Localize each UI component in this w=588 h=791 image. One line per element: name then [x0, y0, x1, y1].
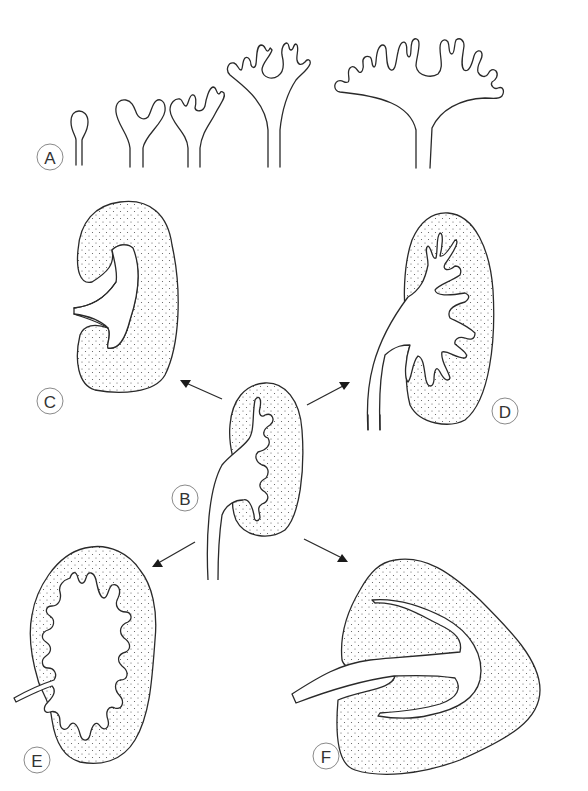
label-b: B	[172, 485, 198, 511]
svg-text:A: A	[44, 149, 56, 168]
arrow-b-to-d	[307, 382, 350, 405]
label-d: D	[492, 398, 518, 424]
panel-e-multilobar-kidney: E	[14, 547, 156, 773]
svg-text:C: C	[44, 393, 56, 412]
bud-stage-3	[170, 87, 224, 167]
svg-text:E: E	[31, 752, 42, 771]
panel-f-crest-kidney: F	[292, 559, 540, 774]
bud-stage-1	[71, 111, 88, 165]
panel-c-unipapillary-kidney: C	[37, 201, 178, 414]
svg-text:F: F	[321, 748, 331, 767]
panel-d-kidney: D	[367, 213, 518, 430]
label-e: E	[24, 747, 50, 773]
kidney-development-diagram: A C D B E	[0, 0, 588, 791]
arrow-b-to-e	[152, 542, 195, 567]
svg-text:D: D	[499, 403, 511, 422]
bud-stage-5	[335, 39, 504, 168]
arrow-b-to-c	[180, 380, 222, 399]
panel-b-kidney: B	[172, 383, 303, 580]
bud-stage-2	[116, 100, 165, 167]
label-a: A	[37, 144, 63, 170]
label-c: C	[37, 388, 63, 414]
bud-stage-4	[227, 43, 310, 167]
panel-a-branching-sequence: A	[37, 39, 503, 170]
svg-text:B: B	[179, 490, 190, 509]
label-f: F	[313, 743, 339, 769]
arrow-b-to-f	[304, 539, 348, 562]
